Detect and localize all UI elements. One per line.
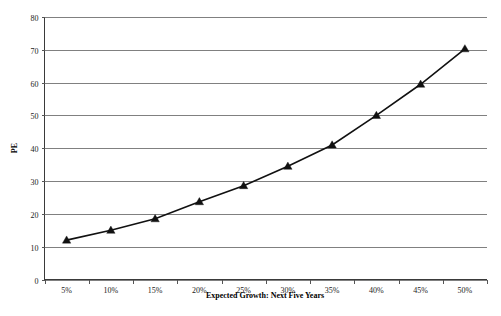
line-chart: 01020304050607080 5%10%15%20%25%30%35%40… — [0, 0, 501, 316]
y-tick-label: 80 — [31, 14, 39, 23]
y-tick-label: 50 — [31, 112, 39, 121]
x-tick-label: 45% — [413, 286, 428, 295]
y-axis-title: PE — [10, 143, 19, 153]
y-tick-label: 40 — [31, 145, 39, 154]
y-tick-label: 70 — [31, 47, 39, 56]
y-tick-label: 10 — [31, 244, 39, 253]
x-axis-title: Expected Growth: Next Five Years — [206, 291, 324, 300]
chart-background — [0, 0, 501, 316]
x-tick-label: 50% — [458, 286, 473, 295]
y-tick-labels: 01020304050607080 — [31, 14, 39, 286]
x-tick-label: 20% — [192, 286, 207, 295]
x-tick-label: 10% — [104, 286, 119, 295]
chart-container: 01020304050607080 5%10%15%20%25%30%35%40… — [0, 0, 501, 316]
x-tick-label: 5% — [61, 286, 72, 295]
x-tick-label: 40% — [369, 286, 384, 295]
y-tick-label: 30 — [31, 178, 39, 187]
x-tick-label: 15% — [148, 286, 163, 295]
x-tick-label: 35% — [325, 286, 340, 295]
y-tick-label: 0 — [35, 277, 39, 286]
y-tick-label: 20 — [31, 211, 39, 220]
y-tick-label: 60 — [31, 80, 39, 89]
